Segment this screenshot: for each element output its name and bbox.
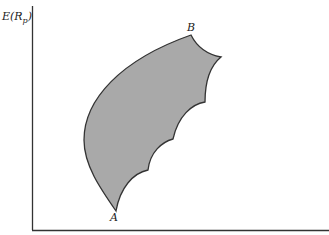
y-axis-label-close: ) [27, 10, 32, 23]
y-axis-label-main: E(R [1, 10, 23, 23]
point-label-b: B [186, 21, 195, 34]
opportunity-set-diagram: E(Rp) A B [0, 0, 329, 235]
feasible-region [84, 35, 221, 211]
y-axis-label: E(Rp) [1, 10, 32, 25]
point-label-a: A [109, 211, 118, 224]
